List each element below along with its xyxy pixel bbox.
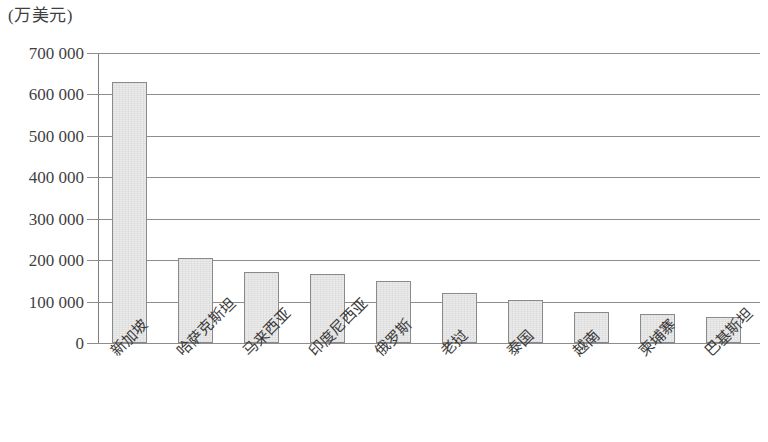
bar-新加坡[interactable] <box>112 82 147 343</box>
gridline <box>98 94 760 95</box>
y-tick-mark <box>87 53 98 54</box>
gridline <box>98 136 760 137</box>
y-tick-label: 700 000 <box>0 45 84 62</box>
y-tick-mark <box>87 94 98 95</box>
y-tick-mark <box>87 260 98 261</box>
plot-area <box>98 53 760 343</box>
y-tick-mark <box>87 302 98 303</box>
y-tick-label: 100 000 <box>0 294 84 311</box>
gridline <box>98 177 760 178</box>
y-tick-label: 600 000 <box>0 86 84 103</box>
y-axis-tick-labels: 700 000 600 000 500 000 400 000 300 000 … <box>0 0 84 442</box>
y-tick-mark <box>87 177 98 178</box>
y-tick-label: 200 000 <box>0 252 84 269</box>
y-tick-label: 300 000 <box>0 211 84 228</box>
y-tick-label: 0 <box>0 335 84 352</box>
gridline <box>98 219 760 220</box>
y-tick-mark <box>87 136 98 137</box>
y-tick-mark <box>87 343 98 344</box>
y-tick-mark <box>87 219 98 220</box>
x-axis-category-labels: 新加坡 哈萨克斯坦 马来西亚 印度尼西亚 俄罗斯 老挝 泰国 越南 柬埔寨 巴基… <box>98 344 768 442</box>
bar-chart: (万美元) 700 000 600 000 500 000 400 000 30… <box>0 0 768 442</box>
gridline <box>98 53 760 54</box>
y-tick-label: 500 000 <box>0 128 84 145</box>
y-tick-label: 400 000 <box>0 169 84 186</box>
